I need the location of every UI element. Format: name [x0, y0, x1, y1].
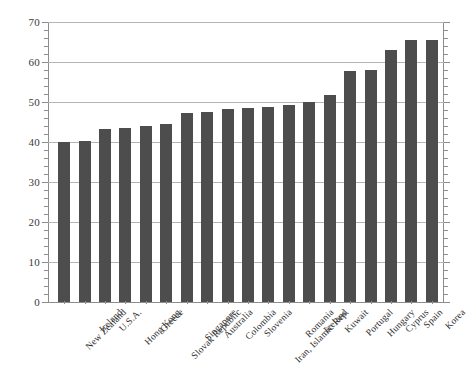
x-tick	[391, 301, 392, 304]
y-tick-minor-64	[44, 46, 48, 47]
y-tick-minor-right-18	[444, 230, 448, 231]
x-tick	[125, 301, 126, 304]
bar	[140, 126, 152, 302]
bar	[242, 108, 254, 302]
y-tick-major-right-20	[444, 222, 450, 223]
bar	[385, 50, 397, 302]
y-axis-label-60: 60	[28, 56, 40, 68]
x-tick	[64, 301, 65, 304]
y-tick-major-10	[42, 262, 48, 263]
x-axis-label: Korea	[443, 307, 467, 331]
y-tick-minor-24	[44, 206, 48, 207]
y-tick-minor-right-46	[444, 118, 448, 119]
bar	[262, 107, 274, 302]
y-axis-label-40: 40	[28, 136, 40, 148]
y-axis-label-0: 0	[34, 296, 40, 308]
y-tick-minor-16	[44, 238, 48, 239]
y-tick-minor-right-52	[444, 94, 448, 95]
y-tick-minor-54	[44, 86, 48, 87]
y-tick-minor-46	[44, 118, 48, 119]
bar	[222, 109, 234, 302]
y-tick-minor-2	[44, 294, 48, 295]
y-tick-major-70	[42, 22, 48, 23]
y-tick-minor-36	[44, 158, 48, 159]
bar	[160, 124, 172, 302]
y-tick-major-40	[42, 142, 48, 143]
y-tick-minor-right-58	[444, 70, 448, 71]
x-tick	[85, 301, 86, 304]
y-tick-minor-right-24	[444, 206, 448, 207]
x-tick	[105, 301, 106, 304]
y-tick-minor-right-6	[444, 278, 448, 279]
x-tick	[432, 301, 433, 304]
y-tick-minor-14	[44, 246, 48, 247]
y-tick-major-20	[42, 222, 48, 223]
y-tick-major-right-70	[444, 22, 450, 23]
y-tick-minor-34	[44, 166, 48, 167]
x-tick	[228, 301, 229, 304]
bar	[99, 129, 111, 302]
bar	[79, 141, 91, 302]
y-tick-minor-right-2	[444, 294, 448, 295]
y-tick-minor-22	[44, 214, 48, 215]
y-tick-minor-38	[44, 150, 48, 151]
y-tick-minor-right-44	[444, 126, 448, 127]
y-tick-major-right-60	[444, 62, 450, 63]
bar	[303, 102, 315, 302]
bar	[201, 112, 213, 302]
y-tick-minor-right-36	[444, 158, 448, 159]
x-tick	[207, 301, 208, 304]
x-axis-line	[48, 302, 444, 303]
y-tick-minor-8	[44, 270, 48, 271]
y-tick-minor-68	[44, 30, 48, 31]
x-tick	[350, 301, 351, 304]
y-tick-minor-right-64	[444, 46, 448, 47]
y-axis-label-70: 70	[28, 16, 40, 28]
y-tick-minor-right-16	[444, 238, 448, 239]
y-tick-minor-18	[44, 230, 48, 231]
gridline-70	[48, 22, 444, 23]
y-tick-minor-right-42	[444, 134, 448, 135]
y-tick-minor-right-68	[444, 30, 448, 31]
y-tick-minor-right-32	[444, 174, 448, 175]
bar	[324, 95, 336, 302]
y-tick-minor-right-22	[444, 214, 448, 215]
y-axis-label-30: 30	[28, 176, 40, 188]
x-tick	[371, 301, 372, 304]
y-tick-minor-52	[44, 94, 48, 95]
y-tick-minor-58	[44, 70, 48, 71]
x-axis-labels: New ZealandIrelandU.S.A.Hong KongGreeceS…	[48, 304, 444, 372]
y-tick-minor-right-56	[444, 78, 448, 79]
y-tick-minor-right-48	[444, 110, 448, 111]
y-tick-major-right-0	[444, 302, 450, 303]
y-tick-major-30	[42, 182, 48, 183]
x-tick	[248, 301, 249, 304]
bar	[119, 128, 131, 302]
x-tick	[330, 301, 331, 304]
y-axis-label-10: 10	[28, 256, 40, 268]
y-tick-minor-44	[44, 126, 48, 127]
y-tick-minor-66	[44, 38, 48, 39]
x-tick	[166, 301, 167, 304]
bar	[58, 142, 70, 302]
x-tick	[146, 301, 147, 304]
y-tick-minor-right-66	[444, 38, 448, 39]
x-tick	[289, 301, 290, 304]
y-tick-minor-right-14	[444, 246, 448, 247]
y-tick-major-50	[42, 102, 48, 103]
x-tick	[411, 301, 412, 304]
y-tick-minor-right-4	[444, 286, 448, 287]
y-tick-minor-right-34	[444, 166, 448, 167]
y-tick-minor-62	[44, 54, 48, 55]
y-tick-minor-32	[44, 174, 48, 175]
y-tick-minor-6	[44, 278, 48, 279]
y-axis-label-50: 50	[28, 96, 40, 108]
x-tick	[309, 301, 310, 304]
y-tick-minor-right-26	[444, 198, 448, 199]
y-tick-minor-12	[44, 254, 48, 255]
y-tick-minor-right-12	[444, 254, 448, 255]
y-tick-minor-28	[44, 190, 48, 191]
y-tick-major-right-50	[444, 102, 450, 103]
y-tick-major-right-40	[444, 142, 450, 143]
bar	[181, 113, 193, 302]
